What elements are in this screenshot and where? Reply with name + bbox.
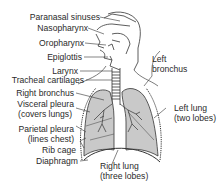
label-left-lung-note: (two lobes)	[174, 114, 216, 123]
label-rib-cage: Rib cage	[0, 146, 76, 155]
label-tracheal-cartilages: Tracheal cartilages	[0, 76, 84, 85]
label-left-lung: Left lung	[174, 104, 207, 113]
label-paranasal-sinuses: Paranasal sinuses	[22, 13, 100, 22]
label-oropharynx: Oropharynx	[22, 39, 84, 48]
label-left-bronchus-2: bronchus	[152, 65, 187, 74]
label-left-bronchus: Left	[152, 55, 166, 64]
label-visceral-pleura: Visceral pleura	[0, 100, 74, 109]
label-parietal-pleura: Parietal pleura	[0, 125, 74, 134]
trachea	[112, 68, 120, 105]
label-right-lung-note: (three lobes)	[100, 172, 148, 181]
label-nasopharynx: Nasopharynx	[22, 24, 88, 33]
label-right-bronchus: Right bronchus	[0, 89, 74, 98]
label-parietal-pleura-note: (lines chest)	[0, 135, 74, 144]
right-lung	[84, 90, 114, 156]
label-epiglottis: Epiglottis	[22, 53, 82, 62]
label-visceral-pleura-note: (covers lungs)	[0, 110, 72, 119]
label-diaphragm: Diaphragm	[0, 157, 78, 166]
label-right-lung: Right lung	[100, 162, 139, 171]
